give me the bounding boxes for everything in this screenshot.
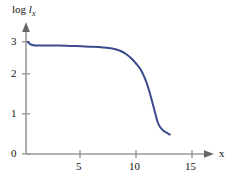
y-axis-title-subscript: x bbox=[32, 9, 36, 18]
data-series-survivorship bbox=[28, 42, 170, 135]
x-tick-label-15: 15 bbox=[185, 160, 196, 172]
y-axis-title-prefix: log bbox=[12, 3, 29, 15]
y-axis-arrow-icon bbox=[22, 22, 30, 32]
y-tick-label-2: 2 bbox=[11, 67, 17, 79]
y-tick-label-3: 3 bbox=[11, 35, 17, 47]
x-tick-label-10: 10 bbox=[129, 160, 140, 172]
x-tick-label-5: 5 bbox=[76, 160, 82, 172]
y-tick-label-0: 0 bbox=[11, 147, 17, 159]
chart-figure: 0 1 2 3 5 10 15 log lx x bbox=[0, 0, 233, 182]
x-axis-arrow-icon bbox=[204, 150, 214, 158]
chart-canvas bbox=[0, 0, 233, 182]
x-axis-title: x bbox=[219, 147, 225, 159]
y-axis-title: log lx bbox=[12, 3, 35, 18]
y-tick-label-1: 1 bbox=[11, 107, 17, 119]
